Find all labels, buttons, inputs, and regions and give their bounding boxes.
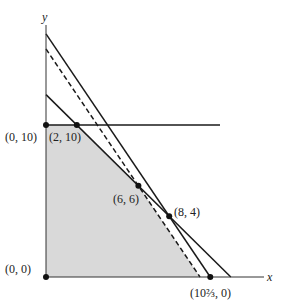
y-axis-label: y <box>41 10 48 24</box>
corner-point-dot <box>74 122 80 128</box>
corner-point-dot <box>43 274 49 280</box>
corner-point-label: (0, 10) <box>5 130 37 144</box>
corner-point-dot <box>166 213 172 219</box>
linear-programming-diagram: y x (0, 0)(0, 10)(2, 10)(6, 6)(8, 4)(10⅔… <box>0 0 281 306</box>
corner-point-dot <box>135 183 141 189</box>
corner-point-label: (10⅔, 0) <box>190 286 231 300</box>
x-axis-label: x <box>266 270 273 284</box>
corner-point-label: (0, 0) <box>5 262 31 276</box>
corner-point-dot <box>207 274 213 280</box>
corner-point-label: (2, 10) <box>49 130 81 144</box>
plot-canvas: y x (0, 0)(0, 10)(2, 10)(6, 6)(8, 4)(10⅔… <box>0 0 281 306</box>
corner-point-dot <box>43 122 49 128</box>
corner-point-label: (6, 6) <box>113 192 139 206</box>
corner-point-label: (8, 4) <box>174 205 200 219</box>
